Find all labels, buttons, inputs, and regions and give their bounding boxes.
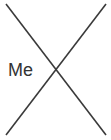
diagram-canvas: Me <box>0 0 111 140</box>
label-me: Me <box>8 61 33 79</box>
